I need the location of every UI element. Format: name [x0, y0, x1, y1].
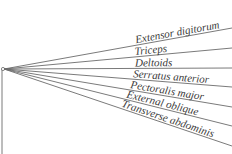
leaf-label: Deltoids: [134, 56, 172, 68]
branch-line: [4, 68, 232, 69]
muscle-tree-diagram: Extensor digitorumTricepsDeltoidsSerratu…: [0, 0, 232, 154]
leaf-label: Extensor digitorum: [133, 18, 220, 45]
branch-line: [4, 48, 232, 69]
